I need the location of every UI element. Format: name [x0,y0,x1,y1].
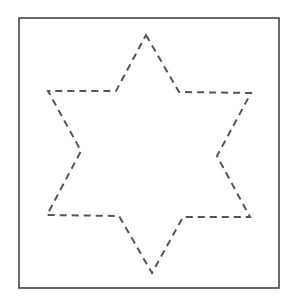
diagram-canvas [0,0,294,308]
frame-border [19,18,279,288]
star-outline [47,35,251,273]
